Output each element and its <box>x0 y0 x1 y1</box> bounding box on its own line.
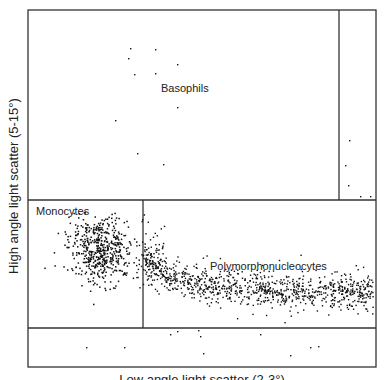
basophils-label: Basophils <box>161 82 209 94</box>
x-axis-label: Low angle light scatter (2-3°) <box>28 373 376 380</box>
y-axis-label: High angle light scatter (5-15°) <box>6 86 22 286</box>
monocytes-label: Monocytes <box>36 205 89 217</box>
outer-frame <box>28 10 376 367</box>
pmn-label: Polymorphonucleocytes <box>210 260 327 272</box>
scatter-points <box>44 48 374 356</box>
scatter-plot <box>0 0 385 380</box>
gate-lines <box>28 10 376 367</box>
